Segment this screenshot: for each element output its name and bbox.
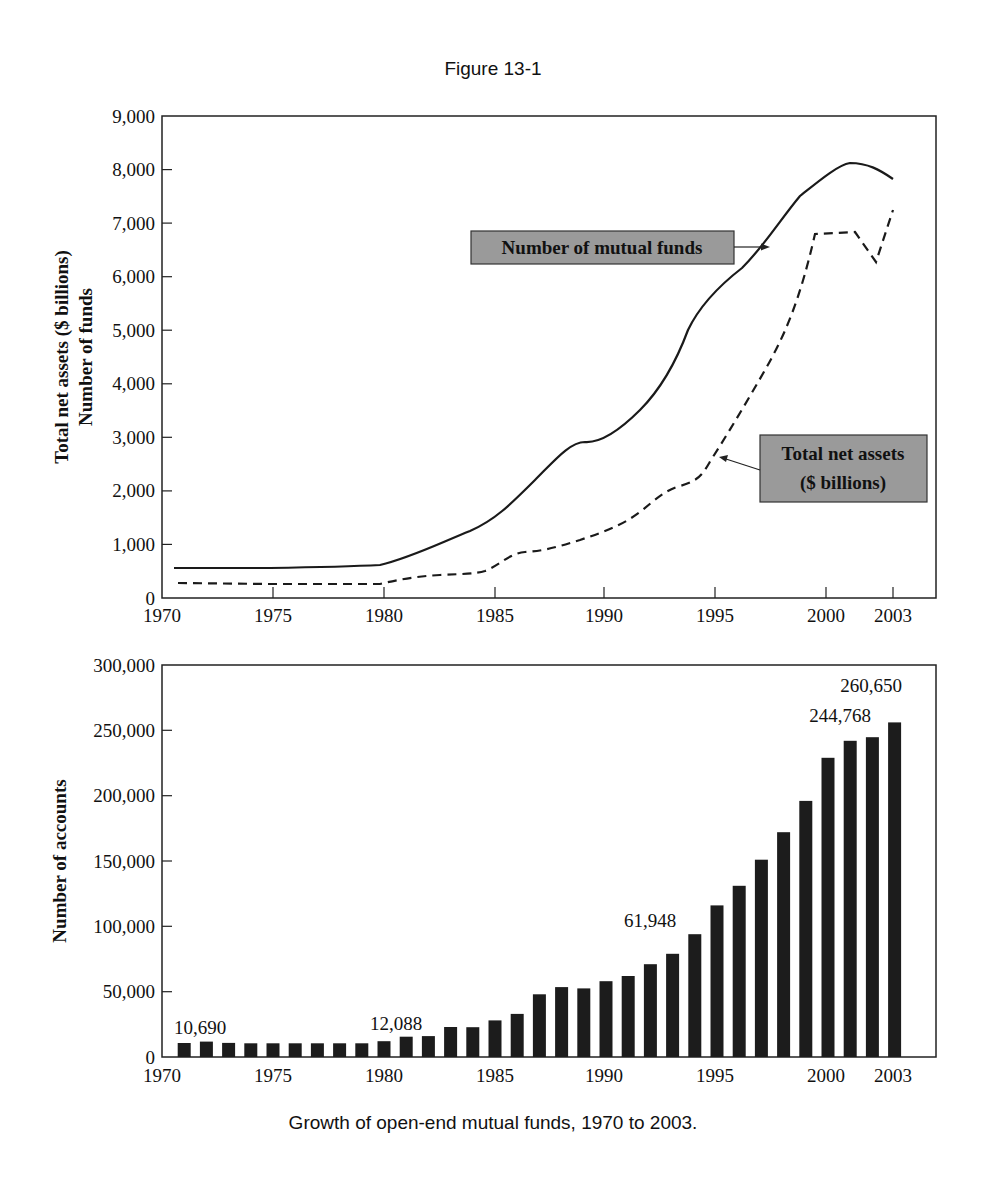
legend-funds: Number of mutual funds <box>471 231 770 264</box>
account-bars <box>178 722 901 1057</box>
x-tick-label: 1985 <box>476 1065 514 1086</box>
bar-2003 <box>888 722 901 1057</box>
x-tick-label: 2003 <box>874 605 912 626</box>
bottom-y-ticks <box>162 730 172 991</box>
bar-1984 <box>466 1027 479 1057</box>
funds-line <box>174 163 893 568</box>
top-y-axis-title: Total net assets ($ billions) <box>51 250 73 464</box>
y-tick-label: 200,000 <box>93 785 155 806</box>
bottom-x-tick-labels: 1970 1975 1980 1985 1990 1995 2000 2003 <box>143 1065 912 1086</box>
bottom-y-tick-labels: 0 50,000 100,000 150,000 200,000 250,000… <box>93 655 155 1068</box>
bar-1981 <box>400 1037 413 1057</box>
top-y-ticks <box>162 170 172 545</box>
top-y-axis-subtitle: Number of funds <box>75 288 96 426</box>
x-tick-label: 2000 <box>807 1065 845 1086</box>
bar-data-labels: 10,690 12,088 61,948 244,768 260,650 <box>174 675 902 1038</box>
y-tick-label: 3,000 <box>112 427 155 448</box>
bottom-y-axis-title: Number of accounts <box>49 779 70 942</box>
legend-assets-label-line2: ($ billions) <box>800 472 886 494</box>
y-tick-label: 9,000 <box>112 106 155 127</box>
figure-canvas: 0 1,000 2,000 3,000 4,000 5,000 6,000 7,… <box>0 0 986 1177</box>
bar-1994 <box>688 934 701 1057</box>
x-tick-label: 1980 <box>365 605 403 626</box>
x-tick-label: 1990 <box>585 605 623 626</box>
y-tick-label: 100,000 <box>93 916 155 937</box>
bar-1985 <box>489 1020 502 1057</box>
bar-1995 <box>711 905 724 1057</box>
data-label-1980: 12,088 <box>370 1013 422 1034</box>
x-tick-label: 2003 <box>874 1065 912 1086</box>
y-tick-label: 5,000 <box>112 320 155 341</box>
bar-1980 <box>378 1041 391 1057</box>
y-tick-label: 300,000 <box>93 655 155 676</box>
bar-1989 <box>577 988 590 1057</box>
y-tick-label: 7,000 <box>112 213 155 234</box>
bar-1990 <box>600 981 613 1057</box>
top-chart: 0 1,000 2,000 3,000 4,000 5,000 6,000 7,… <box>51 106 936 626</box>
data-label-1992: 61,948 <box>624 910 676 931</box>
bar-1996 <box>733 886 746 1057</box>
bar-1986 <box>511 1014 524 1057</box>
bar-1991 <box>622 976 635 1057</box>
x-tick-label: 1975 <box>254 605 292 626</box>
bar-2001 <box>844 741 857 1057</box>
bar-1974 <box>244 1043 257 1057</box>
y-tick-label: 150,000 <box>93 851 155 872</box>
top-plot-frame <box>162 116 936 598</box>
data-label-1971: 10,690 <box>174 1017 226 1038</box>
x-tick-label: 1975 <box>254 1065 292 1086</box>
arrow-head-icon <box>761 244 770 251</box>
legend-funds-label: Number of mutual funds <box>502 237 703 258</box>
y-tick-label: 50,000 <box>103 981 155 1002</box>
bar-1976 <box>289 1043 302 1057</box>
y-tick-label: 8,000 <box>112 159 155 180</box>
bar-1975 <box>267 1043 280 1057</box>
top-x-tick-labels: 1970 1975 1980 1985 1990 1995 2000 2003 <box>143 605 912 626</box>
bar-1999 <box>799 801 812 1057</box>
y-tick-label: 6,000 <box>112 266 155 287</box>
legend-assets-label-line1: Total net assets <box>782 443 905 464</box>
bar-1997 <box>755 860 768 1057</box>
assets-line <box>178 210 893 584</box>
arrow-head-icon <box>719 455 728 462</box>
x-tick-label: 1970 <box>143 1065 181 1086</box>
bar-1982 <box>422 1036 435 1057</box>
x-tick-label: 1985 <box>476 605 514 626</box>
y-tick-label: 1,000 <box>112 534 155 555</box>
bottom-chart: 0 50,000 100,000 150,000 200,000 250,000… <box>49 655 936 1086</box>
y-tick-label: 250,000 <box>93 720 155 741</box>
bar-1971 <box>178 1043 191 1057</box>
x-tick-label: 1995 <box>696 605 734 626</box>
bar-1977 <box>311 1043 324 1057</box>
bar-1998 <box>777 832 790 1057</box>
bar-1979 <box>355 1043 368 1057</box>
bar-1992 <box>644 964 657 1057</box>
top-x-ticks <box>273 587 893 598</box>
x-tick-label: 1995 <box>696 1065 734 1086</box>
top-y-tick-labels: 0 1,000 2,000 3,000 4,000 5,000 6,000 7,… <box>112 106 155 609</box>
x-tick-label: 2000 <box>807 605 845 626</box>
bar-1983 <box>444 1027 457 1057</box>
bar-1993 <box>666 954 679 1057</box>
x-tick-label: 1990 <box>585 1065 623 1086</box>
legend-assets: Total net assets ($ billions) <box>719 435 927 502</box>
x-tick-label: 1970 <box>143 605 181 626</box>
bar-1972 <box>200 1042 213 1057</box>
data-label-2003: 260,650 <box>840 675 902 696</box>
bar-1987 <box>533 994 546 1057</box>
bar-1973 <box>222 1043 235 1057</box>
bar-1978 <box>333 1043 346 1057</box>
x-tick-label: 1980 <box>365 1065 403 1086</box>
legend-assets-arrow <box>726 459 760 470</box>
bar-1988 <box>555 987 568 1057</box>
bar-2002 <box>866 737 879 1057</box>
figure-caption: Growth of open-end mutual funds, 1970 to… <box>0 1112 986 1134</box>
y-tick-label: 4,000 <box>112 373 155 394</box>
bar-2000 <box>822 758 835 1057</box>
data-label-2000: 244,768 <box>809 705 871 726</box>
y-tick-label: 2,000 <box>112 480 155 501</box>
